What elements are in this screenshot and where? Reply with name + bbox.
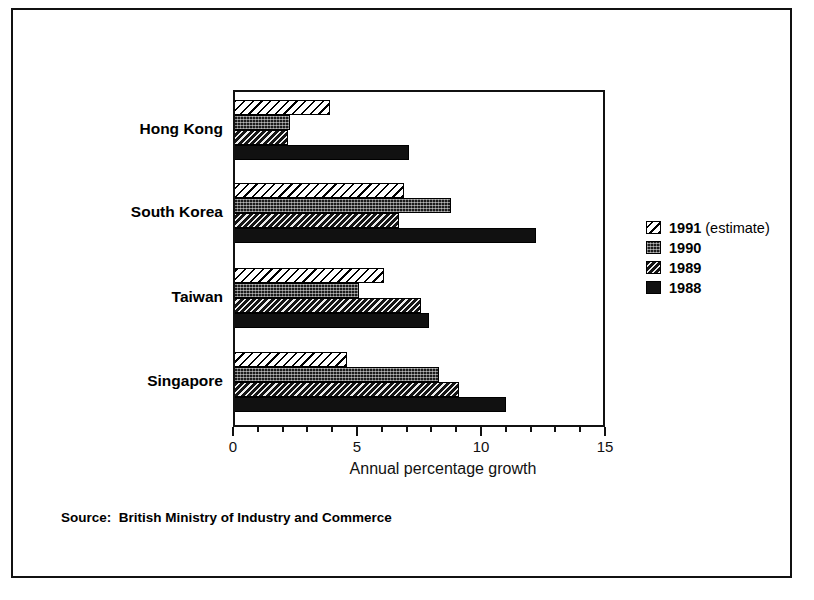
- bar: [233, 352, 347, 367]
- legend-swatch: [646, 241, 661, 254]
- x-tick-minor: [505, 427, 507, 432]
- bar-row: [233, 115, 605, 130]
- bar-group: [233, 352, 605, 412]
- x-tick-minor: [455, 427, 457, 432]
- bar-row: [233, 352, 605, 367]
- x-tick-minor: [554, 427, 556, 432]
- x-tick-label: 0: [229, 438, 237, 455]
- bar-row: [233, 298, 605, 313]
- bar: [233, 183, 404, 198]
- bar-group: [233, 183, 605, 243]
- bar-row: [233, 198, 605, 213]
- x-tick-minor: [579, 427, 581, 432]
- category-axis-labels: Hong KongSouth KoreaTaiwanSingapore: [53, 90, 223, 427]
- bar: [233, 298, 421, 313]
- bar-row: [233, 313, 605, 328]
- figure-frame: Hong KongSouth KoreaTaiwanSingapore 0510…: [11, 8, 792, 578]
- bar-row: [233, 268, 605, 283]
- bar-row: [233, 100, 605, 115]
- bar: [233, 100, 330, 115]
- x-tick-minor: [406, 427, 408, 432]
- bar: [233, 145, 409, 160]
- legend-swatch: [646, 281, 661, 294]
- category-label: Singapore: [147, 372, 223, 390]
- x-tick-minor: [381, 427, 383, 432]
- x-axis-ticks: 051015: [233, 427, 605, 437]
- x-tick-minor: [282, 427, 284, 432]
- category-label: Hong Kong: [139, 120, 223, 138]
- x-tick-minor: [530, 427, 532, 432]
- legend-item: 1991 (estimate): [646, 218, 796, 237]
- bar-row: [233, 367, 605, 382]
- category-label: South Korea: [131, 203, 223, 221]
- legend-item: 1988: [646, 278, 796, 297]
- bar: [233, 268, 384, 283]
- legend-swatch: [646, 261, 661, 274]
- bar: [233, 382, 459, 397]
- x-tick-label: 5: [353, 438, 361, 455]
- bar-row: [233, 283, 605, 298]
- x-axis-title: Annual percentage growth: [233, 460, 653, 478]
- x-tick-minor: [306, 427, 308, 432]
- x-tick-minor: [257, 427, 259, 432]
- bar: [233, 130, 288, 145]
- category-label: Taiwan: [172, 288, 223, 306]
- legend-label: 1989: [669, 260, 701, 276]
- x-tick-major: [480, 427, 482, 436]
- x-tick-minor: [430, 427, 432, 432]
- legend-item: 1990: [646, 238, 796, 257]
- bar-row: [233, 382, 605, 397]
- bar: [233, 367, 439, 382]
- legend-label: 1991 (estimate): [669, 220, 770, 236]
- legend-label: 1990: [669, 240, 701, 256]
- x-tick-major: [356, 427, 358, 436]
- x-tick-minor: [331, 427, 333, 432]
- bar: [233, 213, 399, 228]
- bar: [233, 283, 359, 298]
- legend: 1991 (estimate)199019891988: [646, 218, 796, 298]
- bar-group: [233, 268, 605, 328]
- x-tick-label: 10: [473, 438, 490, 455]
- bar: [233, 313, 429, 328]
- plot-area: 051015: [233, 90, 605, 427]
- bar-row: [233, 130, 605, 145]
- bar-row: [233, 145, 605, 160]
- x-tick-major: [232, 427, 234, 436]
- bar-group: [233, 100, 605, 160]
- x-tick-major: [604, 427, 606, 436]
- legend-label: 1988: [669, 280, 701, 296]
- bar-row: [233, 228, 605, 243]
- bar-row: [233, 213, 605, 228]
- legend-item: 1989: [646, 258, 796, 277]
- bar: [233, 115, 290, 130]
- bar: [233, 198, 451, 213]
- bar-row: [233, 183, 605, 198]
- legend-swatch: [646, 221, 661, 234]
- x-tick-label: 15: [597, 438, 614, 455]
- bar: [233, 397, 506, 412]
- bar-row: [233, 397, 605, 412]
- bar: [233, 228, 536, 243]
- source-note: Source: British Ministry of Industry and…: [61, 510, 392, 525]
